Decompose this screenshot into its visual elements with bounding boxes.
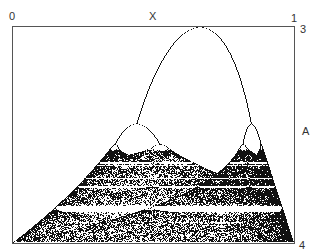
y-axis-title: A xyxy=(302,126,309,137)
x-axis-min-label: 0 xyxy=(9,11,15,22)
x-axis-max-label: 1 xyxy=(291,13,297,24)
y-axis-max-label: 4 xyxy=(299,240,305,251)
plot-area xyxy=(12,26,295,244)
y-axis-min-label: 3 xyxy=(300,24,306,35)
bifurcation-scatter xyxy=(13,27,294,243)
x-axis-title: X xyxy=(149,11,156,22)
